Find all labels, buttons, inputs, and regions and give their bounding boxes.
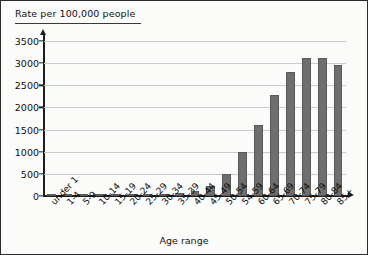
y-axis-tick-label: 1500 xyxy=(15,124,39,135)
y-axis-tick-label: 3500 xyxy=(15,36,39,47)
y-axis-tick-label: 2500 xyxy=(15,80,39,91)
y-axis-tick-label: 1000 xyxy=(15,146,39,157)
y-axis-title-underline xyxy=(15,23,141,24)
y-axis-tick-label: 3000 xyxy=(15,58,39,69)
y-axis-tick-label: 500 xyxy=(21,168,39,179)
plot-area xyxy=(44,41,346,196)
bar xyxy=(286,72,295,196)
chart-figure: Rate per 100,000 people 0500100015002000… xyxy=(0,0,368,255)
bar xyxy=(302,58,311,196)
x-axis-title: Age range xyxy=(1,235,367,246)
bar xyxy=(318,58,327,196)
y-axis-tick-label: 2000 xyxy=(15,102,39,113)
y-axis-title: Rate per 100,000 people xyxy=(15,8,135,19)
bar xyxy=(334,65,343,196)
y-axis-arrow-icon xyxy=(40,29,46,35)
